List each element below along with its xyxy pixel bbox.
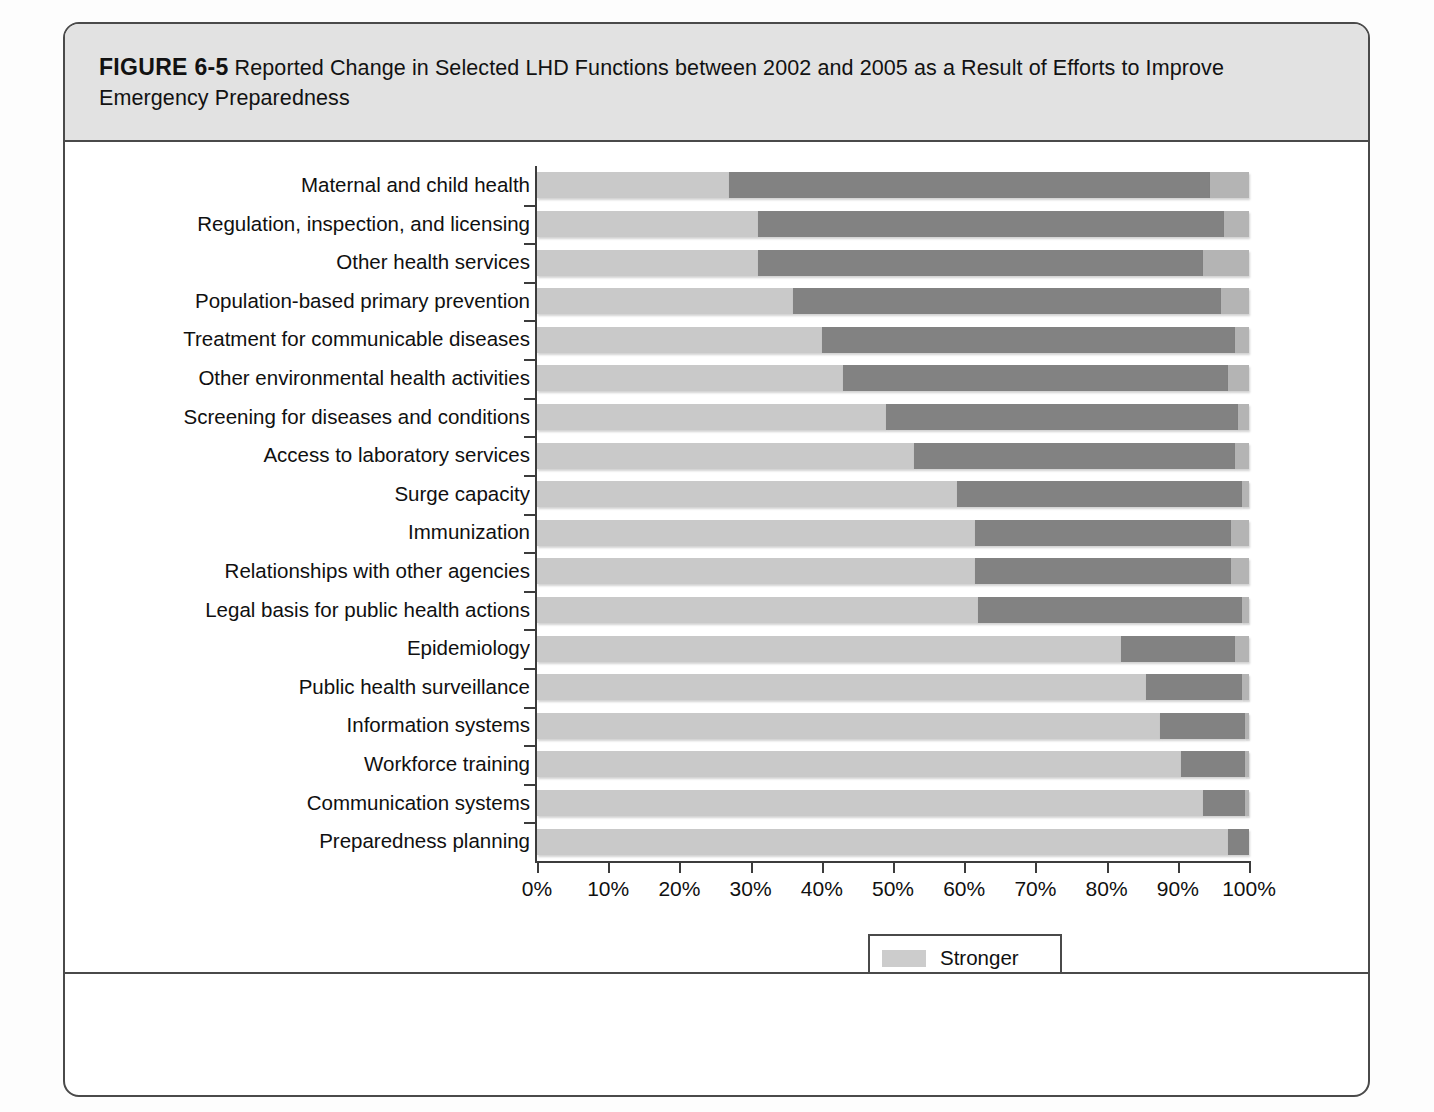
bar-segment-nochange <box>1121 636 1235 662</box>
y-axis-tick <box>524 552 535 554</box>
bar-segment-stronger <box>537 520 975 546</box>
bar-segment-stronger <box>537 790 1203 816</box>
bar-row <box>537 829 1251 855</box>
figure-caption-text: Reported Change in Selected LHD Function… <box>99 56 1224 110</box>
y-axis-tick <box>524 205 535 207</box>
bar-segment-stronger <box>537 288 793 314</box>
bar-row <box>537 751 1251 777</box>
y-axis-tick <box>524 359 535 361</box>
y-axis-tick <box>524 707 535 709</box>
y-axis-tick <box>524 629 535 631</box>
x-axis-tick-label: 50% <box>872 877 914 901</box>
bar-segment-stronger <box>537 404 886 430</box>
y-axis-tick <box>524 398 535 400</box>
bar-row <box>537 250 1251 276</box>
bar-segment-stronger <box>537 481 957 507</box>
bar-row <box>537 790 1251 816</box>
bar-row <box>537 713 1251 739</box>
bar-row <box>537 674 1251 700</box>
x-axis-tick-label: 0% <box>522 877 552 901</box>
legend-swatch-stronger-icon <box>882 950 926 967</box>
bar-segment-nochange <box>758 211 1224 237</box>
bar-segment-weaker <box>1224 211 1249 237</box>
x-axis-tick-mark <box>679 861 681 873</box>
bar-segment-weaker <box>1238 404 1249 430</box>
bar-segment-nochange <box>793 288 1220 314</box>
bar-row <box>537 520 1251 546</box>
bar-row <box>537 288 1251 314</box>
bar-segment-nochange <box>1203 790 1246 816</box>
y-axis-label: Epidemiology <box>75 629 530 668</box>
bar-segment-stronger <box>537 443 914 469</box>
y-axis-label: Public health surveillance <box>75 668 530 707</box>
legend-item-stronger: Stronger <box>882 945 1044 971</box>
y-axis-tick <box>524 320 535 322</box>
y-axis-label: Other health services <box>75 243 530 282</box>
y-axis-label: Relationships with other agencies <box>75 552 530 591</box>
y-axis-category-labels: Maternal and child healthRegulation, ins… <box>75 166 530 861</box>
bar-segment-nochange <box>758 250 1203 276</box>
x-axis-tick-mark <box>1178 861 1180 873</box>
figure-caption: FIGURE 6-5 Reported Change in Selected L… <box>99 52 1334 113</box>
x-axis-tick-label: 100% <box>1222 877 1276 901</box>
y-axis-label: Preparedness planning <box>75 822 530 861</box>
bar-segment-nochange <box>843 365 1227 391</box>
bar-row <box>537 481 1251 507</box>
bar-segment-nochange <box>1146 674 1242 700</box>
y-axis-tick <box>524 591 535 593</box>
bar-row <box>537 211 1251 237</box>
bar-segment-stronger <box>537 365 843 391</box>
bar-segment-nochange <box>975 558 1231 584</box>
bar-segment-nochange <box>1160 713 1245 739</box>
bar-segment-weaker <box>1231 520 1249 546</box>
bar-row <box>537 443 1251 469</box>
bar-segment-stronger <box>537 211 758 237</box>
y-axis-label: Workforce training <box>75 745 530 784</box>
plot-area <box>535 166 1249 861</box>
y-axis-tick <box>524 745 535 747</box>
bar-segment-stronger <box>537 597 978 623</box>
y-axis-label: Information systems <box>75 706 530 745</box>
figure-card: FIGURE 6-5 Reported Change in Selected L… <box>63 22 1370 1097</box>
x-axis-tick-mark <box>608 861 610 873</box>
bar-segment-stronger <box>537 751 1181 777</box>
y-axis-tick <box>524 243 535 245</box>
y-axis-label: Legal basis for public health actions <box>75 591 530 630</box>
bar-row <box>537 404 1251 430</box>
bar-segment-weaker <box>1245 713 1249 739</box>
bar-segment-stronger <box>537 674 1146 700</box>
x-axis-tick-mark <box>751 861 753 873</box>
y-axis-label: Screening for diseases and conditions <box>75 398 530 437</box>
x-axis-tick-mark <box>1107 861 1109 873</box>
bar-segment-weaker <box>1242 597 1249 623</box>
legend-label-stronger: Stronger <box>940 946 1019 970</box>
chart-container: Maternal and child healthRegulation, ins… <box>65 142 1368 1034</box>
x-axis-tick-mark <box>893 861 895 873</box>
bar-segment-stronger <box>537 327 822 353</box>
bar-segment-nochange <box>957 481 1242 507</box>
bar-row <box>537 558 1251 584</box>
x-axis-tick-mark <box>1249 861 1251 873</box>
bar-segment-stronger <box>537 250 758 276</box>
x-axis-tick-label: 90% <box>1157 877 1199 901</box>
x-axis-tick-mark <box>1035 861 1037 873</box>
x-axis-tick-label: 60% <box>943 877 985 901</box>
bar-segment-nochange <box>1228 829 1249 855</box>
figure-caption-band: FIGURE 6-5 Reported Change in Selected L… <box>65 24 1368 142</box>
bar-segment-nochange <box>729 172 1210 198</box>
y-axis-tick <box>524 668 535 670</box>
bar-segment-weaker <box>1221 288 1249 314</box>
x-axis-tick-mark <box>822 861 824 873</box>
stacked-bar-chart: Maternal and child healthRegulation, ins… <box>65 142 1368 1034</box>
y-axis-label: Communication systems <box>75 784 530 823</box>
x-axis-tick-label: 20% <box>658 877 700 901</box>
bar-segment-stronger <box>537 558 975 584</box>
bar-row <box>537 636 1251 662</box>
bar-segment-stronger <box>537 829 1228 855</box>
bar-segment-stronger <box>537 636 1121 662</box>
bar-segment-nochange <box>886 404 1238 430</box>
y-axis-tick <box>524 475 535 477</box>
bar-segment-nochange <box>975 520 1231 546</box>
bar-segment-weaker <box>1245 751 1249 777</box>
y-axis-label: Access to laboratory services <box>75 436 530 475</box>
